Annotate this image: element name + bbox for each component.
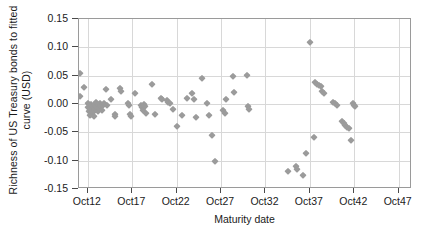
y-axis-tick-mark <box>72 46 78 47</box>
data-point <box>204 100 210 106</box>
data-point <box>179 112 185 118</box>
data-point <box>303 149 309 155</box>
x-axis-title: Maturity date <box>78 213 411 225</box>
y-axis-tick-mark <box>72 103 78 104</box>
x-axis-tick-mark <box>398 188 399 193</box>
data-point <box>311 134 317 140</box>
data-point <box>170 105 176 111</box>
x-axis-tick-mark <box>220 188 221 193</box>
gridline-horizontal <box>79 161 410 162</box>
gridline-vertical <box>399 19 400 187</box>
data-point <box>184 95 190 101</box>
gridline-vertical <box>265 19 266 187</box>
data-point <box>117 88 123 94</box>
y-axis-tick-label: -0.15 <box>8 182 68 194</box>
x-axis-tick-mark <box>87 188 88 193</box>
data-point <box>246 105 252 111</box>
gridline-vertical <box>221 19 222 187</box>
data-point <box>347 136 353 142</box>
data-point <box>193 114 199 120</box>
y-axis-tick-mark <box>72 160 78 161</box>
gridline-horizontal <box>79 47 410 48</box>
gridline-horizontal <box>79 132 410 133</box>
data-point <box>102 85 108 91</box>
data-point <box>333 102 339 108</box>
data-point <box>81 84 87 90</box>
x-axis-tick-mark <box>309 188 310 193</box>
data-point <box>284 168 290 174</box>
data-point <box>173 122 179 128</box>
y-axis-tick-mark <box>72 18 78 19</box>
x-axis-tick-mark <box>264 188 265 193</box>
x-axis-tick-label: Oct47 <box>368 195 428 207</box>
data-point <box>152 110 158 116</box>
data-point <box>229 72 235 78</box>
data-point <box>231 89 237 95</box>
data-point <box>300 172 306 178</box>
data-point <box>212 158 218 164</box>
y-axis-tick-label: -0.05 <box>8 125 68 137</box>
data-point <box>191 96 197 102</box>
y-axis-tick-label: -0.10 <box>8 154 68 166</box>
data-point <box>294 165 300 171</box>
y-axis-tick-label: 0.10 <box>8 40 68 52</box>
data-point <box>149 81 155 87</box>
x-axis-tick-mark <box>353 188 354 193</box>
y-axis-tick-label: 0.00 <box>8 97 68 109</box>
scatter-chart: Richness of US Treasury bonds to fitted … <box>0 0 432 242</box>
data-point <box>125 102 131 108</box>
data-point <box>143 110 149 116</box>
data-point <box>321 89 327 95</box>
data-point <box>78 93 83 99</box>
gridline-vertical <box>177 19 178 187</box>
data-point <box>244 71 250 77</box>
data-point <box>346 125 352 131</box>
plot-area <box>78 18 411 188</box>
gridline-vertical <box>132 19 133 187</box>
y-axis-tick-mark <box>72 131 78 132</box>
x-axis-tick-mark <box>131 188 132 193</box>
data-point <box>108 96 114 102</box>
y-axis-tick-label: 0.15 <box>8 12 68 24</box>
data-point <box>104 101 110 107</box>
data-point <box>223 96 229 102</box>
x-axis-tick-mark <box>176 188 177 193</box>
data-point <box>307 38 313 44</box>
y-axis-tick-mark <box>72 188 78 189</box>
data-point <box>205 112 211 118</box>
data-point <box>91 113 97 119</box>
y-axis-tick-label: 0.05 <box>8 69 68 81</box>
y-axis-tick-mark <box>72 75 78 76</box>
